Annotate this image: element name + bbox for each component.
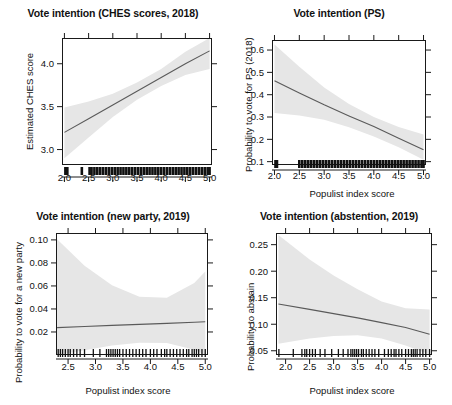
x-tick-label: 4.5 — [392, 170, 405, 181]
y-tick-label: 0.04 — [30, 303, 49, 314]
y-tick-label: 0.05 — [250, 345, 269, 356]
y-tick-label: 0.10 — [30, 234, 49, 245]
figure-panel-grid: Vote intention (CHES scores, 2018) Estim… — [0, 0, 452, 405]
panel-vote-ps: Vote intention (PS) Probability to vote … — [226, 0, 452, 203]
y-tick-label: 0.20 — [250, 266, 269, 277]
y-tick-label: 3.0 — [41, 144, 54, 155]
x-tick-label: 4.5 — [171, 361, 184, 372]
plot-area: 2.02.53.03.54.04.55.03.03.54.0 — [0, 0, 226, 203]
y-tick-label: 0.5 — [251, 67, 264, 78]
panel-new-party: Vote intention (new party, 2019) Probabi… — [0, 203, 226, 405]
x-tick-label: 3.0 — [89, 361, 102, 372]
y-tick-label: 0.2 — [251, 134, 264, 145]
x-tick-label: 3.5 — [351, 361, 364, 372]
x-tick-label: 5.0 — [417, 170, 430, 181]
x-tick-label: 2.5 — [293, 170, 306, 181]
x-tick-label: 5.0 — [199, 361, 212, 372]
y-tick-label: 0.02 — [30, 326, 49, 337]
x-tick-label: 3.5 — [342, 170, 355, 181]
plot-area: 2.02.53.03.54.04.55.00.050.100.150.200.2… — [226, 203, 452, 405]
y-tick-label: 0.4 — [251, 89, 264, 100]
plot-area: 2.02.53.03.54.04.55.00.10.20.30.40.50.6 — [226, 0, 452, 203]
panel-abstention: Vote intention (abstention, 2019) Probab… — [226, 203, 452, 405]
plot-area: 2.53.03.54.04.55.00.020.040.060.080.10 — [0, 203, 226, 405]
x-tick-label: 4.0 — [144, 361, 157, 372]
confidence-band — [64, 38, 209, 158]
y-tick-label: 0.10 — [250, 319, 269, 330]
x-tick-label: 2.0 — [279, 361, 292, 372]
x-tick-label: 2.0 — [268, 170, 281, 181]
x-tick-label: 4.0 — [367, 170, 380, 181]
x-tick-label: 2.5 — [61, 361, 74, 372]
y-tick-label: 0.15 — [250, 292, 269, 303]
fit-line — [274, 81, 423, 150]
y-tick-label: 0.1 — [251, 156, 264, 167]
confidence-band — [278, 235, 429, 354]
confidence-band — [57, 239, 205, 355]
x-tick-label: 3.0 — [327, 361, 340, 372]
x-tick-label: 3.0 — [318, 170, 331, 181]
x-tick-label: 2.5 — [303, 361, 316, 372]
y-tick-label: 0.06 — [30, 280, 49, 291]
y-tick-label: 3.5 — [41, 101, 54, 112]
x-tick-label: 4.0 — [375, 361, 388, 372]
panel-ches-scores: Vote intention (CHES scores, 2018) Estim… — [0, 0, 226, 203]
y-tick-label: 0.25 — [250, 239, 269, 250]
confidence-band — [274, 44, 423, 159]
y-tick-label: 0.3 — [251, 111, 264, 122]
y-tick-label: 4.0 — [41, 58, 54, 69]
x-tick-label: 4.5 — [399, 361, 412, 372]
x-tick-label: 3.5 — [116, 361, 129, 372]
y-tick-label: 0.6 — [251, 44, 264, 55]
y-tick-label: 0.08 — [30, 257, 49, 268]
x-tick-label: 5.0 — [423, 361, 436, 372]
